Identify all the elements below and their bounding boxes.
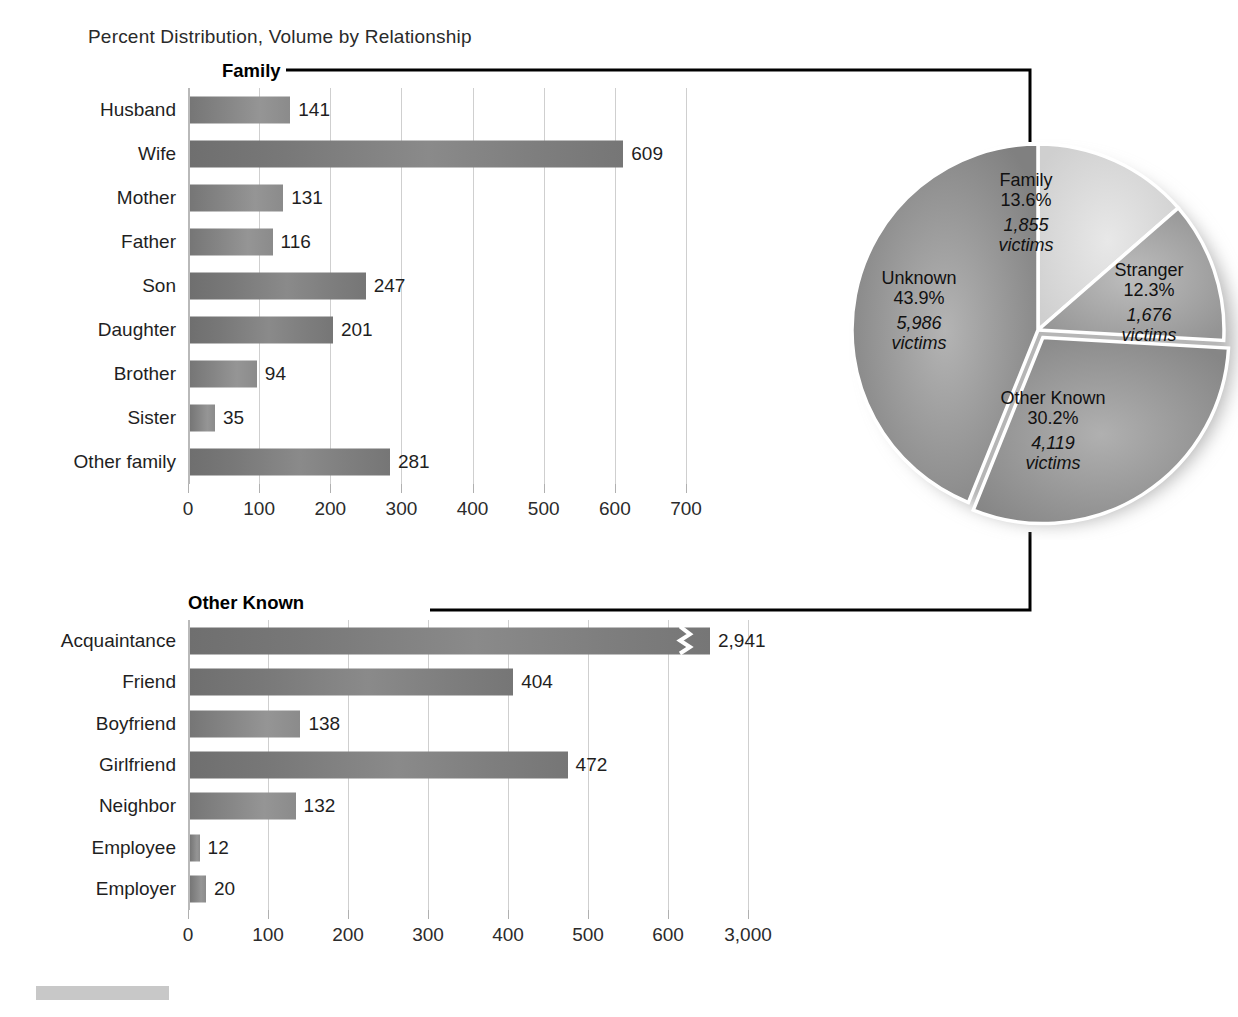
bar-value-label: 116 xyxy=(281,231,311,253)
x-axis-tick-label: 600 xyxy=(652,924,684,946)
bar-category-label: Employee xyxy=(92,837,177,859)
x-axis-tick-label: 500 xyxy=(572,924,604,946)
x-axis-tick-label: 200 xyxy=(314,498,346,520)
bar xyxy=(190,793,296,820)
panel-title-family: Family xyxy=(222,60,281,82)
x-axis-tick-label: 100 xyxy=(243,498,275,520)
x-axis-tick-label: 200 xyxy=(332,924,364,946)
x-axis-tick xyxy=(668,910,669,919)
bar xyxy=(190,710,300,737)
x-axis-tick xyxy=(188,910,189,919)
pie-slice-percent: 13.6% xyxy=(966,190,1086,210)
family-bar-chart: 0100200300400500600700Husband141Wife609M… xyxy=(0,88,800,518)
bar-value-label: 20 xyxy=(214,878,235,900)
bar-value-label: 141 xyxy=(298,99,330,121)
bar-value-label: 2,941 xyxy=(718,630,766,652)
bar-category-label: Daughter xyxy=(98,319,176,341)
bar-category-label: Friend xyxy=(122,671,176,693)
bar xyxy=(190,229,273,256)
bar-value-label: 201 xyxy=(341,319,373,341)
bar-value-label: 138 xyxy=(308,713,340,735)
pie-slice-victims-count: 5,986 xyxy=(854,313,984,333)
x-axis-tick xyxy=(508,910,509,919)
pie-slice-name: Other Known xyxy=(1000,388,1105,408)
x-axis-tick xyxy=(588,910,589,919)
panel-title-other-known: Other Known xyxy=(188,592,304,614)
bar xyxy=(190,317,333,344)
x-axis-tick xyxy=(188,484,189,493)
axis-break-marker xyxy=(676,626,702,655)
x-axis-tick xyxy=(748,910,749,919)
bar-category-label: Sister xyxy=(127,407,176,429)
figure-suptitle: Percent Distribution, Volume by Relation… xyxy=(88,26,472,48)
pie-slice-victims-count: 4,119 xyxy=(968,433,1138,453)
pie-slice-percent: 12.3% xyxy=(1084,280,1214,300)
x-axis-tick xyxy=(544,484,545,493)
pie-slice-victims-count: 1,676 xyxy=(1084,305,1214,325)
footer-color-swatch xyxy=(36,986,169,1000)
x-axis-tick xyxy=(348,910,349,919)
pie-slice-name: Family xyxy=(1000,170,1053,190)
x-axis-tick xyxy=(686,484,687,493)
pie-slice-percent: 30.2% xyxy=(968,408,1138,428)
bar-category-label: Brother xyxy=(114,363,176,385)
x-axis-tick-label: 600 xyxy=(599,498,631,520)
pie-slice-name: Stranger xyxy=(1114,260,1183,280)
pie-slice-name: Unknown xyxy=(881,268,956,288)
bar-category-label: Boyfriend xyxy=(96,713,176,735)
x-axis-tick-label: 300 xyxy=(386,498,418,520)
pie-slice-victims-count: 1,855 xyxy=(966,215,1086,235)
x-axis-tick-label: 3,000 xyxy=(724,924,772,946)
bar-category-label: Mother xyxy=(117,187,176,209)
bar-category-label: Son xyxy=(142,275,176,297)
x-axis-tick xyxy=(473,484,474,493)
family-plot-area: 0100200300400500600700Husband141Wife609M… xyxy=(188,88,686,484)
bar xyxy=(190,876,206,903)
bar xyxy=(190,752,568,779)
x-axis-tick-label: 0 xyxy=(183,498,194,520)
gridline xyxy=(748,620,749,910)
other-known-bar-chart: 01002003004005006003,000Acquaintance2,94… xyxy=(0,620,830,950)
bar-value-label: 35 xyxy=(223,407,244,429)
bar-value-label: 404 xyxy=(521,671,553,693)
pie-slice-label: Other Known30.2%4,119victims xyxy=(968,388,1138,474)
pie-slice-victims-word: victims xyxy=(966,235,1086,255)
pie-slice-percent: 43.9% xyxy=(854,288,984,308)
x-axis-tick-label: 0 xyxy=(183,924,194,946)
bar xyxy=(190,449,390,476)
pie-slice-label: Unknown43.9%5,986victims xyxy=(854,268,984,354)
bar xyxy=(190,97,290,124)
bar-category-label: Girlfriend xyxy=(99,754,176,776)
bar-value-label: 281 xyxy=(398,451,430,473)
pie-slice-victims-word: victims xyxy=(854,333,984,353)
x-axis-tick-label: 100 xyxy=(252,924,284,946)
gridline xyxy=(686,88,687,484)
x-axis-tick xyxy=(330,484,331,493)
bar xyxy=(190,669,513,696)
bar-category-label: Father xyxy=(121,231,176,253)
bar xyxy=(190,273,366,300)
x-axis-tick xyxy=(268,910,269,919)
bar-category-label: Acquaintance xyxy=(61,630,176,652)
x-axis-tick-label: 700 xyxy=(670,498,702,520)
bar-value-label: 131 xyxy=(291,187,323,209)
x-axis-tick xyxy=(401,484,402,493)
bar-category-label: Husband xyxy=(100,99,176,121)
bar-category-label: Employer xyxy=(96,878,176,900)
bar-value-label: 94 xyxy=(265,363,286,385)
bar-value-label: 609 xyxy=(631,143,663,165)
bar xyxy=(190,141,623,168)
bar-category-label: Other family xyxy=(74,451,176,473)
x-axis-tick-label: 300 xyxy=(412,924,444,946)
x-axis-tick xyxy=(615,484,616,493)
x-axis-tick xyxy=(428,910,429,919)
gridline xyxy=(668,620,669,910)
x-axis-tick-label: 400 xyxy=(457,498,489,520)
pie-slice-victims-word: victims xyxy=(1084,325,1214,345)
pie-slice-label: Family13.6%1,855victims xyxy=(966,170,1086,256)
bar-value-label: 132 xyxy=(304,795,336,817)
pie-slice-victims-word: victims xyxy=(968,453,1138,473)
x-axis-tick-label: 400 xyxy=(492,924,524,946)
x-axis-tick xyxy=(259,484,260,493)
bar xyxy=(190,405,215,432)
